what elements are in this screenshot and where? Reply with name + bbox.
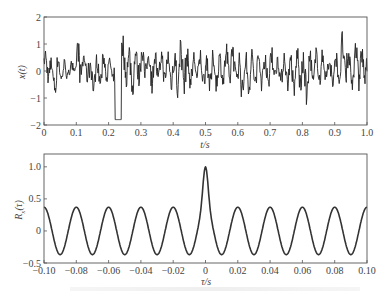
top-y-axis-label: x(t)	[16, 64, 28, 80]
top-x-tick-label: 0	[42, 127, 47, 138]
bottom-x-tick-label: −0.02	[162, 265, 185, 276]
top-x-tick-label: 1.0	[361, 127, 374, 138]
bottom-x-tick-label: −0.06	[97, 265, 120, 276]
figure-caption-faint	[70, 287, 360, 291]
bottom-chart: 1.00.50−0.5 −0.10−0.08−0.06−0.04−0.0200.…	[13, 154, 376, 287]
bottom-y-tick-label: 0.5	[29, 193, 42, 204]
top-x-tick-label: 0.2	[102, 127, 115, 138]
top-x-tick-label: 0.4	[167, 127, 180, 138]
top-y-tick-label: 1	[36, 39, 41, 50]
bottom-x-tick-label: 0.04	[261, 265, 279, 276]
bottom-y-tick-label: 1.0	[29, 161, 42, 172]
top-x-tick-label: 0.7	[264, 127, 277, 138]
figure: 210−1−2 00.10.20.30.40.50.60.70.80.91.0 …	[0, 0, 386, 298]
top-x-tick-label: 0.1	[70, 127, 83, 138]
top-x-tick-label: 0.9	[328, 127, 341, 138]
top-x-axis: 00.10.20.30.40.50.60.70.80.91.0	[42, 122, 374, 138]
bottom-x-tick-label: 0.08	[326, 265, 344, 276]
bottom-x-tick-label: 0.06	[294, 265, 312, 276]
bottom-x-tick-label: 0.10	[358, 265, 376, 276]
top-x-tick-label: 0.3	[135, 127, 148, 138]
bottom-x-axis: −0.10−0.08−0.06−0.04−0.0200.020.040.060.…	[32, 260, 375, 276]
bottom-x-tick-label: 0	[203, 265, 208, 276]
bottom-y-tick-label: 0	[36, 225, 41, 236]
bottom-y-axis-label: Rx(τ)	[13, 200, 27, 221]
top-x-axis-label: t/s	[200, 139, 210, 150]
top-y-tick-label: −2	[30, 120, 41, 131]
bottom-x-tick-label: −0.04	[129, 265, 152, 276]
autocorrelation-trace	[44, 167, 367, 255]
bottom-x-tick-label: −0.08	[65, 265, 88, 276]
top-y-tick-label: 0	[36, 66, 41, 77]
top-y-tick-label: −1	[30, 93, 41, 104]
top-y-tick-label: 2	[36, 12, 41, 23]
bottom-y-axis: 1.00.50−0.5	[23, 161, 47, 268]
signal-trace	[44, 32, 367, 120]
top-y-axis: 210−1−2	[30, 12, 47, 131]
bottom-x-axis-label: τ/s	[201, 276, 211, 287]
top-x-tick-label: 0.6	[232, 127, 245, 138]
bottom-x-tick-label: 0.02	[229, 265, 247, 276]
bottom-plot-frame	[44, 154, 367, 263]
top-chart: 210−1−2 00.10.20.30.40.50.60.70.80.91.0 …	[16, 12, 373, 151]
top-x-tick-label: 0.5	[199, 127, 212, 138]
top-x-tick-label: 0.8	[296, 127, 309, 138]
bottom-x-tick-label: −0.10	[32, 265, 55, 276]
